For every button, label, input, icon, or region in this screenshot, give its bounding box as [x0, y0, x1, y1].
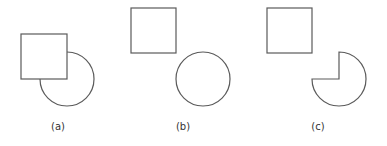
panel-b-square — [131, 8, 176, 53]
panel-a-square — [21, 34, 67, 79]
panel-a-shapes — [21, 34, 94, 106]
panel-a-label: (a) — [51, 121, 65, 132]
panel-c-shapes — [267, 8, 366, 106]
panel-b-shapes — [131, 8, 230, 106]
panel-c-notched-circle — [312, 52, 366, 106]
panel-b-circle — [176, 52, 230, 106]
panel-b-label: (b) — [176, 121, 190, 132]
panel-c-square — [267, 8, 312, 53]
panel-c-label: (c) — [311, 121, 324, 132]
